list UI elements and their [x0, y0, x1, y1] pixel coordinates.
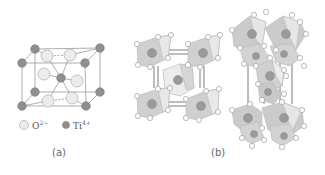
perovskite-figure [0, 0, 325, 175]
panel-label-a: (a) [52, 147, 66, 158]
titanium-legend-icon [63, 122, 70, 129]
panel-label-b: (b) [211, 147, 225, 158]
legend-oxygen-label: O2− [32, 119, 48, 131]
octahedra-structure-1 [134, 32, 222, 122]
legend-titanium-label: Ti4+ [73, 119, 91, 131]
oxygen-legend-icon [20, 121, 29, 130]
octahedra-structure-2 [229, 9, 308, 149]
